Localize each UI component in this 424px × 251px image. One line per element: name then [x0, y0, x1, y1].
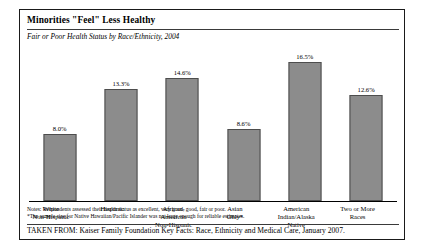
plot-area: 8.0% 13.3% 14.6% 8.6% 16.5% 12.6%: [29, 50, 397, 202]
chart-figure: Minorities "Feel" Less Healthy Fair or P…: [19, 9, 405, 240]
chart-subtitle: Fair or Poor Health Status by Race/Ethni…: [27, 32, 179, 41]
title-divider: [27, 29, 399, 30]
bar-slot: 8.0%: [29, 50, 90, 201]
bar-value-label: 16.5%: [296, 53, 313, 60]
note-line: Notes: Respondents assessed their health…: [27, 206, 399, 213]
bar-slot: 8.6%: [213, 50, 274, 201]
bar-value-label: 12.6%: [358, 86, 375, 93]
source-attribution: TAKEN FROM: Kaiser Family Foundation Key…: [27, 226, 345, 235]
table-row[interactable]: [166, 78, 199, 201]
bar-value-label: 8.6%: [237, 120, 251, 127]
bar-slot: 12.6%: [336, 50, 397, 201]
bar-value-label: 13.3%: [112, 80, 129, 87]
bar-slot: 13.3%: [90, 50, 151, 201]
bar-slot: 16.5%: [274, 50, 335, 201]
table-row[interactable]: [104, 89, 137, 201]
bar-value-label: 8.0%: [53, 125, 67, 132]
table-row[interactable]: [43, 134, 76, 201]
chart-title: Minorities "Feel" Less Healthy: [27, 15, 155, 25]
table-row[interactable]: [288, 62, 321, 201]
source-divider: [27, 224, 399, 225]
chart-notes: Notes: Respondents assessed their health…: [27, 206, 399, 220]
table-row[interactable]: [227, 129, 260, 201]
bar-slot: 14.6%: [152, 50, 213, 201]
x-axis-line: [29, 201, 397, 202]
table-row[interactable]: [350, 95, 383, 201]
bar-value-label: 14.6%: [174, 69, 191, 76]
note-line: *The sample size for Native Hawaiian/Pac…: [27, 213, 399, 220]
